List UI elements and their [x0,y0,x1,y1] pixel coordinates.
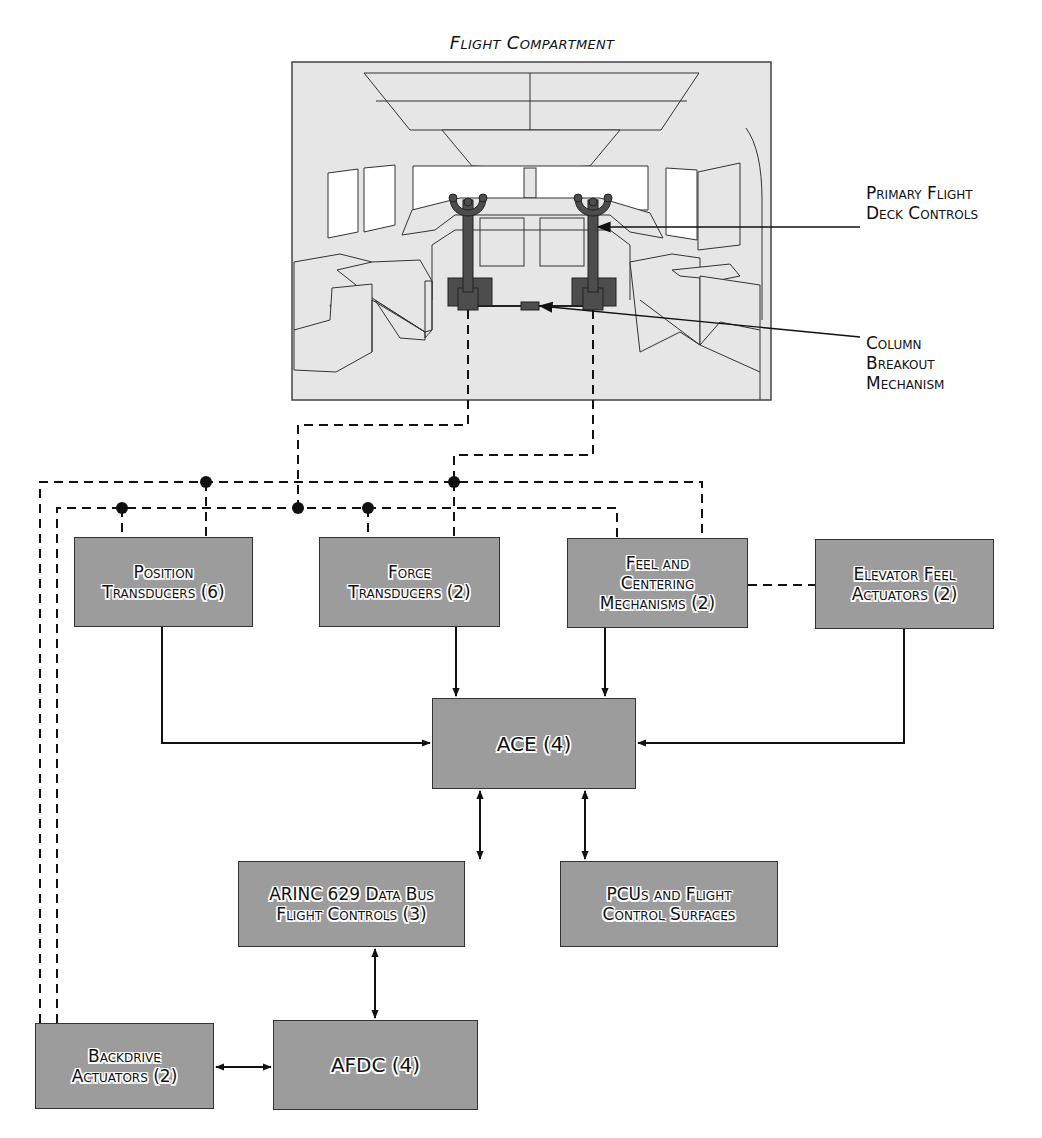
box-label: Feel and Centering Mechanisms (2) [600,553,715,613]
box-position-transducers: Position Transducers (6) [74,537,253,627]
box-arinc-629-data-bus: ARINC 629 Data Bus Flight Controls (3) [238,861,465,947]
box-label: PCUs and Flight Control Surfaces [603,884,736,924]
box-label: Position Transducers (6) [102,562,224,602]
box-elevator-feel-actuators: Elevator Feel Actuators (2) [815,539,994,629]
box-afdc: AFDC (4) [273,1020,478,1110]
box-backdrive-actuators: Backdrive Actuators (2) [35,1023,214,1109]
callout-primary-flight-deck-controls: Primary Flight Deck Controls [866,183,978,223]
flight-compartment-illustration [292,62,860,400]
signal-arrows [162,627,904,1067]
box-pcus-flight-control-surfaces: PCUs and Flight Control Surfaces [560,861,778,947]
box-ace: ACE (4) [432,698,636,789]
box-label: Elevator Feel Actuators (2) [852,564,958,604]
box-force-transducers: Force Transducers (2) [319,537,500,627]
box-label: ARINC 629 Data Bus Flight Controls (3) [269,884,434,924]
box-label: ACE (4) [497,734,572,754]
flight-compartment-title: Flight Compartment [292,32,772,53]
box-label: AFDC (4) [331,1055,420,1075]
callout-column-breakout-mechanism: Column Breakout Mechanism [866,333,944,393]
box-feel-centering-mechanisms: Feel and Centering Mechanisms (2) [567,538,748,628]
box-label: Backdrive Actuators (2) [72,1046,178,1086]
box-label: Force Transducers (2) [348,562,470,602]
